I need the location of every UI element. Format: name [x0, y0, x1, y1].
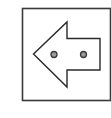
dot-left-icon: [51, 52, 57, 58]
back-arrow-icon[interactable]: [0, 0, 111, 118]
icon-canvas: [0, 0, 111, 118]
dot-right-icon: [81, 52, 87, 58]
